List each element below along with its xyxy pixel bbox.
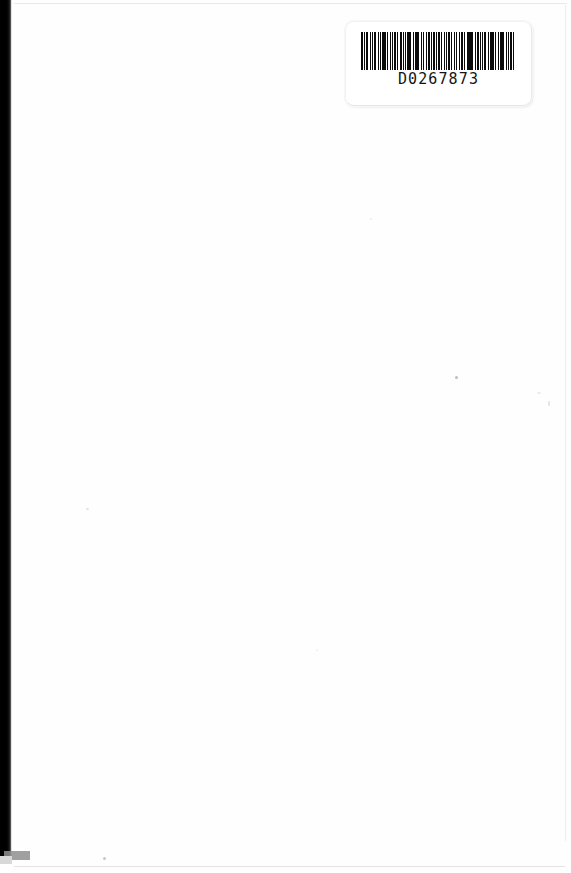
page-paper-surface [12, 0, 571, 873]
dust-speck-lower-center [316, 649, 318, 651]
scan-edge-line-top [14, 3, 567, 4]
scan-edge-line-right [565, 5, 566, 841]
gutter-bottom-foot [0, 856, 12, 864]
dust-speck-right-margin [548, 401, 550, 406]
dust-speck-center-right [455, 376, 458, 379]
barcode-bars-icon [361, 32, 517, 70]
book-spine-gutter-shadow [0, 0, 11, 856]
scanned-page-canvas: D0267873 [0, 0, 571, 873]
barcode-number-text: D0267873 [345, 72, 532, 87]
barcode-space [514, 32, 516, 70]
dust-speck-bottom-left [103, 857, 106, 860]
dust-speck-upper-left [370, 218, 372, 220]
dust-speck-right-edge [537, 392, 541, 394]
dust-speck-left-middle [86, 508, 89, 510]
scan-edge-line-bottom [14, 866, 565, 867]
barcode-label-sticker: D0267873 [345, 21, 532, 106]
